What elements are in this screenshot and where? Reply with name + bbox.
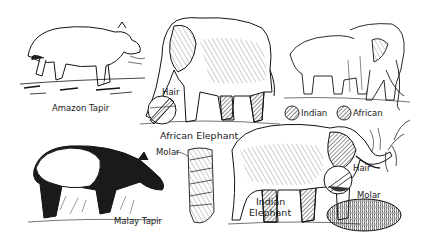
amazon-tapir-drawing — [20, 22, 145, 94]
malay-tapir-drawing — [28, 146, 164, 222]
label-indian-elephant-line1: Indian — [256, 197, 285, 207]
indian-molar-drawing — [327, 199, 401, 231]
label-indian-swatch: Indian — [301, 109, 327, 118]
elephant-pair-drawing — [284, 24, 410, 120]
label-african-molar: Molar — [156, 148, 180, 157]
label-indian-elephant-line2: Elephant — [249, 208, 291, 218]
african-molar-drawing — [176, 148, 214, 223]
label-indian-hair: Hair — [353, 164, 370, 173]
illustration-canvas: Amazon Tapir Hair African Elephant India… — [0, 0, 432, 249]
label-african-hair: Hair — [162, 88, 179, 97]
african-elephant-drawing — [140, 18, 280, 124]
label-malay-tapir: Malay Tapir — [114, 217, 162, 226]
label-amazon-tapir: Amazon Tapir — [52, 104, 109, 113]
label-african-elephant: African Elephant — [160, 131, 238, 141]
illustration-svg — [0, 0, 432, 249]
label-african-swatch: African — [353, 109, 383, 118]
label-indian-molar: Molar — [357, 191, 381, 200]
